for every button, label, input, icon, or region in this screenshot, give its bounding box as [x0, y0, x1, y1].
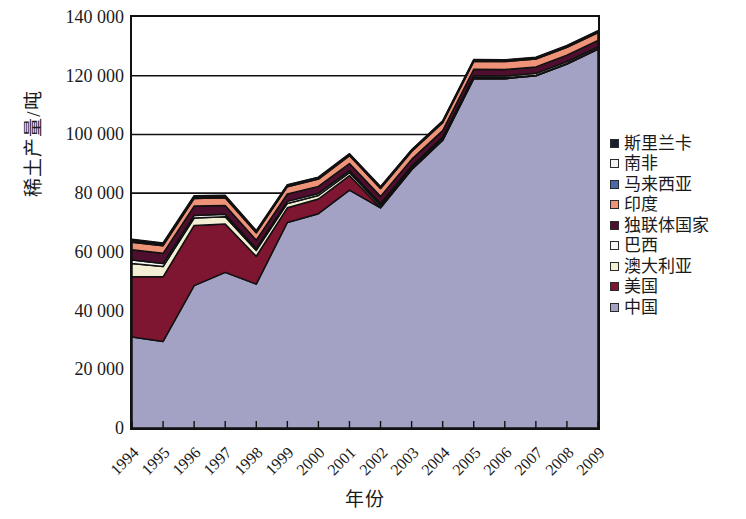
legend-item[interactable]: 美国 — [610, 277, 746, 298]
legend-swatch — [610, 180, 619, 189]
legend-item[interactable]: 马来西亚 — [610, 174, 746, 195]
rare-earth-production-stacked-area-chart: 稀土产量/吨 020 00040 00060 00080 000100 0001… — [0, 0, 746, 519]
legend-item[interactable]: 独联体国家 — [610, 215, 746, 236]
legend-label: 美国 — [624, 278, 658, 295]
legend-swatch — [610, 262, 619, 271]
legend-label: 独联体国家 — [624, 217, 709, 234]
chart-legend: 斯里兰卡南非马来西亚印度独联体国家巴西澳大利亚美国中国 — [610, 133, 746, 318]
legend-swatch — [610, 221, 619, 230]
legend-swatch — [610, 241, 619, 250]
legend-item[interactable]: 南非 — [610, 154, 746, 175]
legend-swatch — [610, 139, 619, 148]
legend-item[interactable]: 印度 — [610, 195, 746, 216]
legend-item[interactable]: 斯里兰卡 — [610, 133, 746, 154]
legend-swatch — [610, 200, 619, 209]
legend-swatch — [610, 303, 619, 312]
legend-label: 巴西 — [624, 237, 658, 254]
legend-swatch — [610, 159, 619, 168]
legend-item[interactable]: 中国 — [610, 297, 746, 318]
legend-swatch — [610, 282, 619, 291]
legend-label: 印度 — [624, 196, 658, 213]
legend-label: 澳大利亚 — [624, 258, 692, 275]
legend-label: 中国 — [624, 299, 658, 316]
x-axis-title: 年份 — [285, 484, 445, 511]
legend-label: 斯里兰卡 — [624, 135, 692, 152]
legend-item[interactable]: 巴西 — [610, 236, 746, 257]
legend-label: 南非 — [624, 155, 658, 172]
legend-label: 马来西亚 — [624, 176, 692, 193]
legend-item[interactable]: 澳大利亚 — [610, 256, 746, 277]
